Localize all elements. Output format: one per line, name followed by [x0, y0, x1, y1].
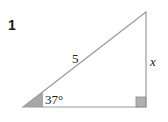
- right-triangle-diagram: 5 x 37°: [0, 0, 168, 122]
- triangle-outline: [23, 12, 146, 107]
- side-x-label: x: [149, 54, 156, 69]
- angle-label: 37°: [45, 92, 63, 107]
- right-angle-marker: [136, 97, 146, 107]
- hypotenuse-label: 5: [72, 51, 79, 66]
